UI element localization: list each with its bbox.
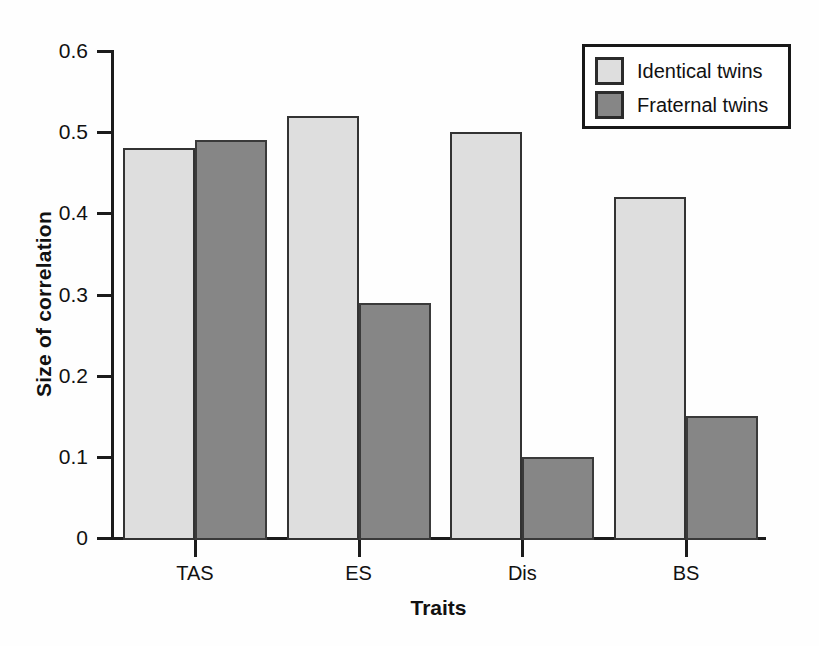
y-axis-title: Size of correlation bbox=[32, 154, 56, 454]
y-tick-mark bbox=[97, 537, 112, 540]
x-tick-mark bbox=[194, 540, 197, 557]
x-tick-label-tas: TAS bbox=[176, 563, 213, 583]
x-tick-label-dis: Dis bbox=[508, 563, 537, 583]
bar-bs-identical bbox=[614, 197, 686, 540]
legend-swatch-identical bbox=[595, 57, 624, 85]
legend-label-identical: Identical twins bbox=[637, 61, 763, 81]
y-tick-mark bbox=[97, 375, 112, 378]
legend-label-fraternal: Fraternal twins bbox=[637, 95, 768, 115]
y-tick-mark bbox=[97, 456, 112, 459]
bar-tas-identical bbox=[123, 148, 195, 540]
y-tick-label: 0.6 bbox=[36, 40, 88, 61]
bar-chart-figure: 0.60.50.40.30.20.10 TASESDisBS Size of c… bbox=[0, 0, 819, 646]
x-tick-mark bbox=[521, 540, 524, 557]
bar-es-identical bbox=[287, 116, 359, 540]
bar-dis-identical bbox=[450, 132, 522, 540]
y-tick-mark bbox=[97, 212, 112, 215]
y-tick-label: 0.5 bbox=[36, 121, 88, 142]
bar-dis-fraternal bbox=[522, 457, 594, 540]
y-tick-mark bbox=[97, 50, 112, 53]
legend-swatch-fraternal bbox=[595, 91, 624, 119]
y-tick-mark bbox=[97, 294, 112, 297]
legend-item-identical: Identical twins bbox=[595, 54, 788, 88]
legend-item-fraternal: Fraternal twins bbox=[595, 88, 788, 122]
bar-bs-fraternal bbox=[686, 416, 758, 540]
y-tick-label: 0 bbox=[36, 527, 88, 548]
x-tick-label-es: ES bbox=[345, 563, 372, 583]
bar-tas-fraternal bbox=[195, 140, 267, 540]
chart-legend: Identical twinsFraternal twins bbox=[582, 44, 791, 129]
x-tick-mark bbox=[685, 540, 688, 557]
x-axis-title: Traits bbox=[111, 596, 766, 620]
x-tick-mark bbox=[358, 540, 361, 557]
y-tick-mark bbox=[97, 131, 112, 134]
x-tick-label-bs: BS bbox=[673, 563, 700, 583]
bar-es-fraternal bbox=[359, 303, 431, 540]
